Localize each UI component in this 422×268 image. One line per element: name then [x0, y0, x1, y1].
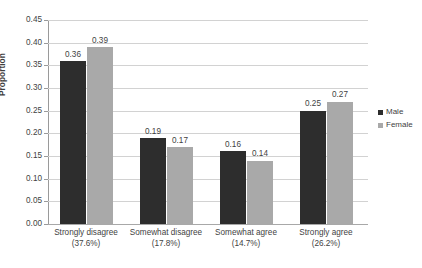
y-tick-label: 0.30 [10, 84, 42, 92]
plot-area: 0.36 0.39 0.19 0.17 0.16 0.14 0.25 0.27 [48, 20, 368, 224]
category-percent: (26.2%) [271, 239, 381, 250]
y-tick-label: 0.25 [10, 107, 42, 115]
bar-group: 0.36 0.39 [60, 20, 113, 224]
y-tick-label: 0.45 [10, 16, 42, 24]
y-tick-label: 0.35 [10, 61, 42, 69]
legend-item-female[interactable]: Female [378, 121, 413, 129]
bar-value-label: 0.39 [80, 37, 120, 45]
legend-item-male[interactable]: Male [378, 108, 413, 116]
bar-male[interactable] [300, 111, 326, 224]
category-name: Strongly agree [299, 228, 352, 237]
legend: Male Female [378, 108, 413, 134]
bar-value-label: 0.27 [320, 91, 360, 99]
legend-label: Male [386, 108, 403, 116]
y-axis-title: Proportion [0, 53, 7, 96]
x-axis-category-label: Strongly agree (26.2%) [271, 228, 381, 249]
bar-group: 0.16 0.14 [220, 20, 273, 224]
bar-value-label: 0.16 [213, 141, 253, 149]
y-tick-label: 0.20 [10, 129, 42, 137]
legend-swatch-icon [378, 123, 383, 128]
bar-female[interactable] [247, 161, 273, 224]
bar-value-label: 0.25 [293, 100, 333, 108]
bar-value-label: 0.19 [133, 128, 173, 136]
y-tick-label: 0.15 [10, 152, 42, 160]
bar-value-label: 0.14 [240, 150, 280, 158]
bar-male[interactable] [140, 138, 166, 224]
bar-chart: Proportion 0.45 0.40 0.35 0.30 0.25 0.20… [0, 0, 422, 268]
x-axis-line [48, 224, 368, 225]
y-tick-label: 0.05 [10, 197, 42, 205]
bar-male[interactable] [220, 151, 246, 224]
bar-value-label: 0.36 [53, 51, 93, 59]
y-tick-label: 0.10 [10, 175, 42, 183]
bar-male[interactable] [60, 61, 86, 224]
category-name: Somewhat agree [215, 228, 277, 237]
bar-female[interactable] [327, 102, 353, 224]
legend-label: Female [386, 121, 413, 129]
y-tick-label: 0.40 [10, 39, 42, 47]
category-name: Strongly disagree [54, 228, 118, 237]
bar-group: 0.25 0.27 [300, 20, 353, 224]
bar-female[interactable] [167, 147, 193, 224]
y-tick-label: 0.00 [10, 220, 42, 228]
bar-female[interactable] [87, 47, 113, 224]
bar-group: 0.19 0.17 [140, 20, 193, 224]
bar-value-label: 0.17 [160, 137, 200, 145]
legend-swatch-icon [378, 110, 383, 115]
